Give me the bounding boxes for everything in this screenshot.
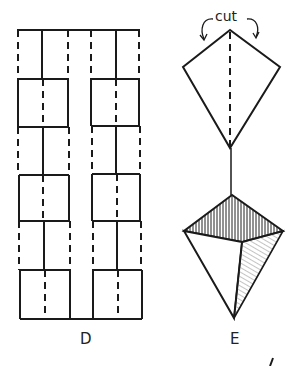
corner-mark <box>270 358 273 366</box>
cut-annotation: cut <box>215 8 237 24</box>
diagram-canvas <box>0 0 299 366</box>
figure-e-kite <box>183 19 280 195</box>
figure-d-label: D <box>80 330 92 348</box>
figure-e-label: E <box>230 330 239 348</box>
figure-e-pyramid <box>184 195 283 318</box>
figure-d-grid <box>17 30 142 319</box>
